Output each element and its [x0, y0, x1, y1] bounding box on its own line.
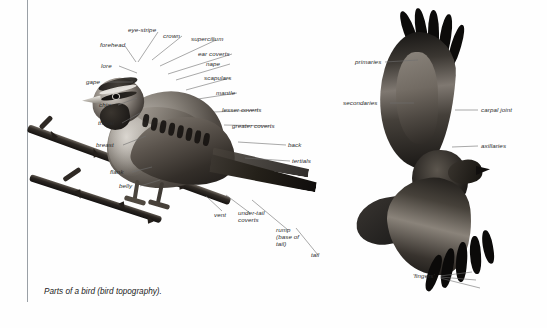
label-tail: tail	[311, 251, 319, 258]
label-flank: flank	[110, 168, 124, 175]
label-forehead: forehead	[100, 41, 125, 48]
label-lesser-coverts: lesser coverts	[222, 106, 262, 113]
twig	[39, 115, 54, 130]
label-rump: rump (base of tail)	[276, 226, 308, 248]
bird-eye	[113, 94, 119, 99]
upper-wing-inner-coverts	[396, 52, 438, 144]
label-chin: chin	[99, 101, 111, 108]
figure-canvas: eye-stripe crown supercilium forehead ea…	[0, 0, 547, 328]
label-supercilium: supercilium	[191, 35, 223, 42]
twig	[62, 167, 81, 182]
label-axillaries: axillaries	[481, 142, 506, 149]
label-crown: crown	[163, 32, 180, 39]
label-vent: vent	[214, 211, 226, 218]
label-throat: throat	[98, 119, 114, 126]
label-greater-coverts: greater coverts	[232, 122, 275, 129]
label-secondaries: secondaries	[343, 99, 377, 106]
label-carpal-joint: carpal joint	[481, 106, 512, 113]
label-scapulars: scapulars	[204, 74, 231, 81]
label-tertials: tertials	[292, 157, 311, 164]
label-belly: belly	[119, 182, 132, 189]
flying-raptor-illustration	[352, 8, 547, 300]
label-fingers: 'fingers'	[413, 272, 435, 279]
label-mantle: mantle	[216, 89, 235, 96]
label-lore: lore	[101, 62, 112, 69]
label-primaries: primaries	[355, 58, 381, 65]
label-ear-coverts: ear coverts	[198, 50, 230, 57]
label-nape: nape	[206, 60, 220, 67]
label-gape: gape	[86, 78, 100, 85]
label-eye-stripe: eye-stripe	[128, 26, 156, 33]
label-under-tail-coverts: under-tail coverts	[238, 209, 270, 223]
primary-feather	[469, 236, 481, 274]
label-back: back	[288, 141, 301, 148]
raptor-beak	[476, 166, 490, 175]
label-breast: breast	[96, 141, 114, 148]
primary-feather	[480, 229, 495, 264]
figure-caption: Parts of a bird (bird topography).	[44, 287, 162, 296]
